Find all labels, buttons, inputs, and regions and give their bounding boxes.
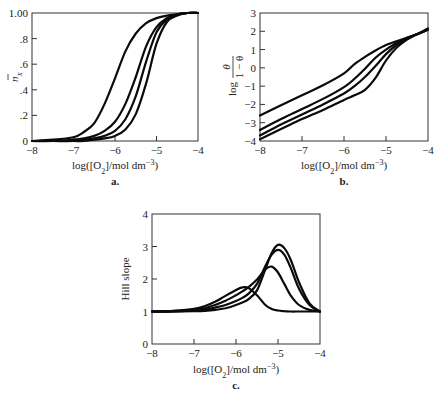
y-tick-label: 3 bbox=[251, 7, 257, 19]
y-axis-label: Hill slope bbox=[119, 257, 131, 300]
panel-label: a. bbox=[111, 175, 120, 187]
y-axis-label: nX bbox=[8, 71, 24, 82]
y-tick-label: 1.00 bbox=[9, 7, 29, 19]
x-tick-label: −7 bbox=[296, 144, 308, 156]
x-tick-label: −7 bbox=[68, 144, 80, 156]
x-axis-label: log([O2]/mol dm−3) bbox=[72, 158, 158, 176]
chart-b: −8−7−6−5−4−4−3−2−10123log([O2]/mol dm−3)… bbox=[220, 7, 434, 187]
chart-c: −8−7−6−5−401234log([O2]/mol dm−3)Hill sl… bbox=[119, 208, 326, 391]
y-tick-label: −4 bbox=[244, 135, 256, 147]
chart-a: −8−7−6−5−40.2.4.6.81.00log([O2]/mol dm−3… bbox=[8, 7, 204, 187]
y-tick-label: .4 bbox=[20, 84, 29, 96]
y-tick-label: 0 bbox=[23, 135, 29, 147]
y-tick-label: 3 bbox=[143, 241, 149, 253]
svg-text:θ: θ bbox=[220, 64, 232, 70]
x-axis-label: log([O2]/mol dm−3) bbox=[193, 362, 279, 380]
svg-text:Hill slope: Hill slope bbox=[119, 257, 131, 300]
y-tick-label: 0 bbox=[251, 62, 257, 74]
figure-canvas: −8−7−6−5−40.2.4.6.81.00log([O2]/mol dm−3… bbox=[0, 0, 434, 395]
svg-text:1 − θ: 1 − θ bbox=[233, 56, 245, 78]
x-tick-label: −5 bbox=[272, 347, 284, 359]
x-tick-label: −4 bbox=[192, 144, 204, 156]
y-tick-label: 1 bbox=[251, 44, 257, 56]
y-tick-label: 4 bbox=[143, 208, 149, 220]
y-axis-label: logθ1 − θ bbox=[220, 56, 245, 96]
y-tick-label: −2 bbox=[244, 98, 256, 110]
x-axis-label: log([O2]/mol dm−3) bbox=[301, 158, 387, 176]
y-tick-label: 0 bbox=[143, 338, 149, 350]
y-tick-label: −3 bbox=[244, 117, 256, 129]
y-tick-label: 1 bbox=[143, 306, 149, 318]
y-tick-label: .2 bbox=[20, 109, 28, 121]
x-tick-label: −4 bbox=[314, 347, 326, 359]
x-tick-label: −5 bbox=[151, 144, 163, 156]
y-tick-label: −1 bbox=[244, 80, 256, 92]
series-line-2 bbox=[260, 30, 428, 131]
x-tick-label: −6 bbox=[109, 144, 121, 156]
svg-text:log: log bbox=[226, 81, 238, 96]
x-tick-label: −7 bbox=[188, 347, 200, 359]
svg-text:nX: nX bbox=[8, 71, 24, 82]
y-tick-label: 2 bbox=[143, 273, 149, 285]
y-tick-label: .8 bbox=[20, 33, 29, 45]
x-tick-label: −6 bbox=[230, 347, 242, 359]
panel-label: c. bbox=[232, 379, 240, 391]
y-tick-label: .6 bbox=[20, 58, 29, 70]
x-tick-label: −4 bbox=[422, 144, 434, 156]
series-line-3 bbox=[260, 30, 428, 136]
x-tick-label: −6 bbox=[338, 144, 350, 156]
x-tick-label: −5 bbox=[380, 144, 392, 156]
panel-label: b. bbox=[340, 175, 349, 187]
y-tick-label: 2 bbox=[251, 25, 257, 37]
